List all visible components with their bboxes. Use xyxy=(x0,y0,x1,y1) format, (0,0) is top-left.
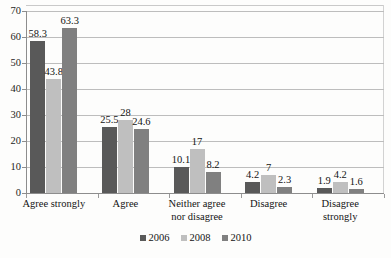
bar-value-label: 58.3 xyxy=(24,29,52,39)
bar-value-label: 24.6 xyxy=(127,117,155,127)
bar-group: 4.272.3 xyxy=(245,11,292,193)
bar xyxy=(62,28,77,193)
bar-group: 1.94.21.6 xyxy=(317,11,364,193)
legend-swatch-icon xyxy=(222,235,228,241)
bar-group: 58.343.863.3 xyxy=(30,11,77,193)
x-axis-category-label-line: Agree strongly xyxy=(18,198,90,211)
y-axis-tick-label: 40 xyxy=(1,84,21,94)
bar xyxy=(277,187,292,193)
bar xyxy=(245,182,260,193)
x-axis-category-label-line: Disagree xyxy=(233,198,305,211)
y-axis-tick-label: 10 xyxy=(1,162,21,172)
chart-page: 010203040506070 58.343.863.325.52824.610… xyxy=(0,0,391,258)
x-axis-category-label: Neither agreenor disagree xyxy=(161,198,233,223)
grouped-bar-chart: 010203040506070 58.343.863.325.52824.610… xyxy=(0,0,391,224)
bar xyxy=(174,167,189,193)
bar xyxy=(206,172,221,193)
bar-value-label: 8.2 xyxy=(199,160,227,170)
y-axis-tick-label: 0 xyxy=(1,188,21,198)
bar xyxy=(30,41,45,193)
y-axis-tick-label: 70 xyxy=(1,6,21,16)
bar xyxy=(190,149,205,193)
bar xyxy=(102,127,117,193)
x-axis-category-label-line: Agree xyxy=(90,198,162,211)
y-axis-tick-labels: 010203040506070 xyxy=(0,0,21,224)
bar xyxy=(134,129,149,193)
legend-label: 2006 xyxy=(149,233,170,243)
x-axis-line xyxy=(26,193,384,194)
plot-border-top xyxy=(26,5,384,6)
bar-value-label: 7 xyxy=(255,163,283,173)
bar xyxy=(349,189,364,193)
bar-value-label: 2.3 xyxy=(271,175,299,185)
legend-item: 2010 xyxy=(222,233,252,243)
x-axis-category-label-line: nor disagree xyxy=(161,211,233,224)
legend-item: 2006 xyxy=(140,233,170,243)
legend-swatch-icon xyxy=(140,235,146,241)
bar xyxy=(118,120,133,193)
chart-legend: 200620082010 xyxy=(0,233,391,243)
legend-label: 2010 xyxy=(231,233,252,243)
x-axis-category-label-line: Neither agree xyxy=(161,198,233,211)
y-axis-tick-label: 50 xyxy=(1,58,21,68)
legend-item: 2008 xyxy=(181,233,211,243)
y-axis-tick-label: 60 xyxy=(1,32,21,42)
bar-group: 10.1178.2 xyxy=(174,11,221,193)
y-axis-tick-label: 20 xyxy=(1,136,21,146)
x-axis-category-label: Agree strongly xyxy=(18,198,90,211)
plot-area: 58.343.863.325.52824.610.1178.24.272.31.… xyxy=(26,11,384,193)
x-axis-category-label: Disagree xyxy=(233,198,305,211)
x-axis-category-label: Disagreestrongly xyxy=(304,198,376,223)
legend-label: 2008 xyxy=(190,233,211,243)
x-axis-tick-mark xyxy=(384,194,385,198)
bar xyxy=(317,188,332,193)
y-axis-tick-label: 30 xyxy=(1,110,21,120)
x-axis-category-label-line: Disagree xyxy=(304,198,376,211)
x-axis-category-label: Agree xyxy=(90,198,162,211)
bar-value-label: 63.3 xyxy=(56,16,84,26)
legend-swatch-icon xyxy=(181,235,187,241)
x-axis-category-label-line: strongly xyxy=(304,211,376,224)
bar xyxy=(46,79,61,193)
bar-value-label: 17 xyxy=(183,137,211,147)
bar-value-label: 1.6 xyxy=(342,177,370,187)
bar-group: 25.52824.6 xyxy=(102,11,149,193)
